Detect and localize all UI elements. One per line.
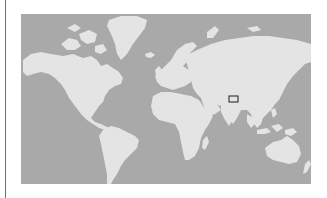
left-border-rule [5,0,6,198]
world-map [21,14,311,184]
world-map-svg [21,14,311,184]
